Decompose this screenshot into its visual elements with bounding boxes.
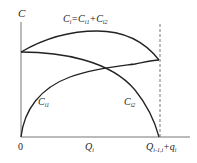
- ci-eq-plus: +C: [89, 13, 102, 24]
- total-curve-label: Ci=Ci1+Ci2: [63, 14, 108, 25]
- qend-plus-sub: i: [175, 147, 177, 153]
- ci2-main: C: [124, 96, 131, 107]
- curve-ci2-label: Ci2: [124, 97, 135, 108]
- qend-sub: i-1,i: [153, 147, 163, 153]
- ci1-main: C: [38, 96, 45, 107]
- qend-plus: +q: [163, 141, 175, 152]
- ci-eq-c: C: [63, 13, 70, 24]
- ci-eq-mid: =C: [71, 13, 84, 24]
- ci-eq-sub2: i2: [103, 19, 108, 25]
- curve-ci1-label: Ci1: [38, 97, 49, 108]
- ci1-sub: i1: [45, 102, 50, 108]
- x-tick-qi: Qi: [85, 142, 94, 153]
- ci2-sub: i2: [131, 102, 136, 108]
- total-curve-ci: [21, 31, 159, 60]
- y-axis-label: C: [18, 8, 25, 19]
- x-tick-capacity: Qi-1,i+qi: [146, 142, 177, 153]
- origin-label: 0: [18, 142, 23, 152]
- qi-sub: i: [92, 147, 94, 153]
